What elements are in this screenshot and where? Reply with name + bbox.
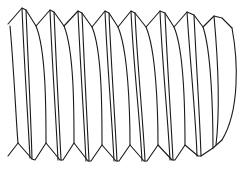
- bottom-thread-profile: [8, 140, 222, 161]
- top-thread-profile: [8, 8, 232, 28]
- screw-end-curve: [222, 28, 236, 140]
- screw-thread-drawing: Line drawing of a threaded screw shank (…: [0, 0, 247, 172]
- screw-illustration: [0, 0, 247, 172]
- thread-flank-lines: [10, 8, 218, 161]
